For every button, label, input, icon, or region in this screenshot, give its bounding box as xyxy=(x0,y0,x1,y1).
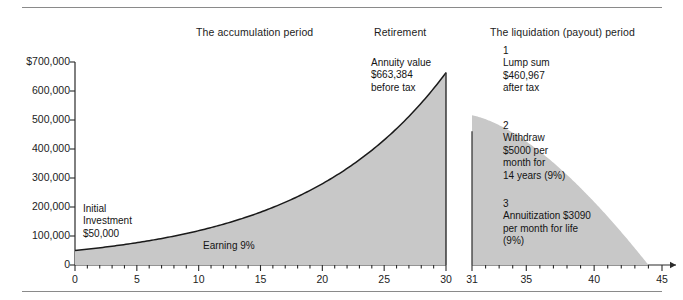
y-tick-label: 300,000 xyxy=(2,171,70,183)
x-tick-label: 20 xyxy=(307,273,337,285)
y-tick-label: 500,000 xyxy=(2,113,70,125)
x-tick-label: 40 xyxy=(579,273,609,285)
x-tick-label: 35 xyxy=(511,273,541,285)
x-tick-label: 0 xyxy=(60,273,90,285)
y-tick-label: 400,000 xyxy=(2,142,70,154)
x-axis-arrow-icon xyxy=(670,262,676,268)
x-tick-label: 15 xyxy=(246,273,276,285)
annuity-lifecycle-figure: The accumulation period Retirement The l… xyxy=(0,0,683,300)
x-tick-label: 5 xyxy=(122,273,152,285)
x-tick-label: 25 xyxy=(369,273,399,285)
y-tick-label: $700,000 xyxy=(2,55,70,67)
x-tick-label: 10 xyxy=(184,273,214,285)
annotation-annuitization: 3 Annuitization $3090 per month for life… xyxy=(503,198,591,248)
y-tick-label: 600,000 xyxy=(2,84,70,96)
y-tick-label: 100,000 xyxy=(2,229,70,241)
annotation-earning-rate: Earning 9% xyxy=(203,240,255,252)
annotation-lump-sum: 1 Lump sum $460,967 after tax xyxy=(503,45,550,95)
annotation-initial-investment: Initial Investment $50,000 xyxy=(83,203,132,240)
y-tick-label: 200,000 xyxy=(2,200,70,212)
x-tick-label: 45 xyxy=(647,273,677,285)
annotation-annuity-value: Annuity value $663,384 before tax xyxy=(371,57,431,94)
x-tick-label: 31 xyxy=(457,273,487,285)
chart-plot-svg xyxy=(0,0,683,300)
y-tick-label: 0 xyxy=(2,258,70,270)
annotation-withdraw: 2 Withdraw $5000 per month for 14 years … xyxy=(503,120,565,182)
